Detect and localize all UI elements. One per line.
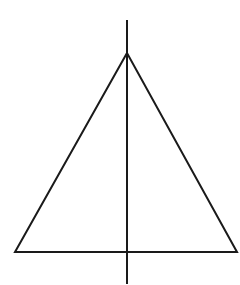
triangle-diagram [0, 0, 240, 285]
diagram-canvas [0, 0, 240, 285]
